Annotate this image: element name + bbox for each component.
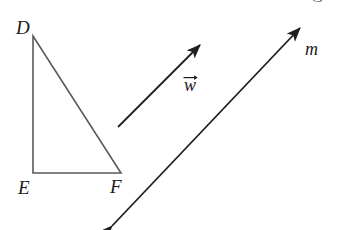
line-m-label: m — [305, 40, 318, 58]
vertex-label-D: D — [16, 18, 30, 37]
vertex-label-E: E — [18, 178, 30, 197]
geometry-diagram: D E F w m G — [0, 0, 337, 230]
vector-w-label: w — [184, 74, 196, 94]
corner-clipped-glyph: G — [311, 0, 323, 5]
diagram-canvas — [0, 0, 337, 230]
line-m-arrow — [112, 28, 300, 226]
vertex-label-F: F — [110, 177, 122, 196]
triangle-DEF-shape — [33, 36, 121, 173]
vector-w-letter: w — [184, 75, 196, 95]
